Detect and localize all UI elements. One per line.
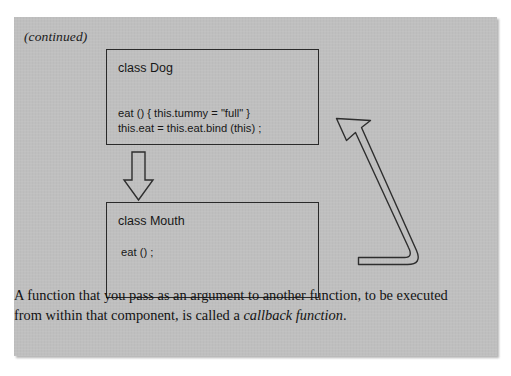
callback-bent-arrow-icon [337,119,419,265]
down-block-arrow-icon [124,152,153,200]
caption-text-tail: . [343,307,347,323]
figure-caption: A function that you pass as an argument … [14,286,469,325]
caption-emphasis-term: callback function [243,307,343,323]
caption-text-lead: A function that you pass as an argument … [14,287,448,323]
